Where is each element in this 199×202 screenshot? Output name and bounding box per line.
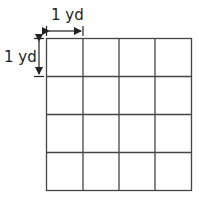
grid-lines <box>47 39 192 191</box>
width-dimension-arrow <box>47 26 84 36</box>
grid-diagram <box>0 0 199 202</box>
width-label: 1 yd <box>51 8 84 23</box>
height-label: 1 yd <box>4 50 37 65</box>
